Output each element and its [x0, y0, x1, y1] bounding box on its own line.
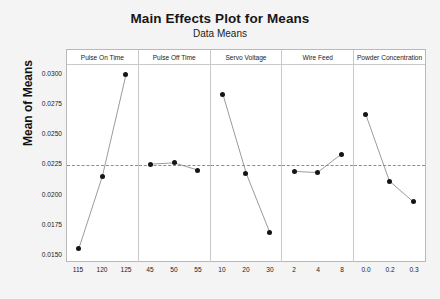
panel-body-1 [67, 65, 139, 262]
title-block: Main Effects Plot for Means Data Means [0, 11, 440, 40]
x-tick-label: 10 [210, 263, 234, 277]
panel-header-row: Pulse On TimePulse Off TimeServo Voltage… [67, 50, 425, 65]
panel-body-3 [211, 65, 283, 262]
x-tick-label: 55 [186, 263, 210, 277]
panel-header-5: Powder Concentration [354, 50, 425, 64]
x-tick-label: 120 [90, 263, 114, 277]
panel-header-4: Wire Feed [282, 50, 354, 64]
y-tick-label: 0.0175 [28, 221, 62, 228]
data-point [148, 162, 153, 167]
x-axis-tick-labels: 1151201254550551020302480.00.20.3 [66, 263, 426, 277]
series-1 [67, 65, 138, 262]
y-axis-tick-labels: 0.03000.02750.02500.02250.02000.01750.01… [24, 49, 62, 262]
series-4 [282, 65, 353, 262]
x-tick-label: 8 [330, 263, 354, 277]
x-tick-group-1: 115120125 [66, 263, 138, 277]
data-point [387, 179, 392, 184]
x-tick-label: 50 [162, 263, 186, 277]
panel-body-5 [354, 65, 425, 262]
data-point [100, 174, 105, 179]
x-tick-label: 45 [138, 263, 162, 277]
x-tick-label: 2 [282, 263, 306, 277]
panel-header-3: Servo Voltage [211, 50, 283, 64]
y-tick-label: 0.0275 [28, 100, 62, 107]
x-tick-label: 4 [306, 263, 330, 277]
x-tick-label: 0.3 [402, 263, 426, 277]
figure-caption [0, 287, 440, 299]
data-point [411, 199, 416, 204]
y-tick-label: 0.0225 [28, 160, 62, 167]
panel-body-row [67, 65, 425, 262]
plot-area: Pulse On TimePulse Off TimeServo Voltage… [66, 49, 426, 262]
series-5 [354, 65, 425, 262]
panel-body-2 [139, 65, 211, 262]
x-tick-label: 0.0 [354, 263, 378, 277]
x-tick-label: 20 [234, 263, 258, 277]
x-tick-label: 115 [66, 263, 90, 277]
panel-body-4 [282, 65, 354, 262]
data-point [195, 168, 200, 173]
y-tick-label: 0.0150 [28, 251, 62, 258]
data-point [339, 152, 344, 157]
panel-header-2: Pulse Off Time [139, 50, 211, 64]
page-title: Main Effects Plot for Means [0, 11, 440, 26]
y-tick-label: 0.0200 [28, 191, 62, 198]
x-tick-label: 125 [114, 263, 138, 277]
main-effects-plot-figure: Main Effects Plot for Means Data Means M… [0, 0, 440, 299]
x-tick-group-3: 102030 [210, 263, 282, 277]
data-point [220, 92, 225, 97]
panel-header-1: Pulse On Time [67, 50, 139, 64]
y-tick-label: 0.0300 [28, 70, 62, 77]
x-tick-label: 30 [258, 263, 282, 277]
x-tick-label: 0.2 [378, 263, 402, 277]
y-tick-label: 0.0250 [28, 130, 62, 137]
chart-subtitle: Data Means [0, 27, 440, 40]
x-tick-group-4: 248 [282, 263, 354, 277]
data-point [292, 169, 297, 174]
x-tick-group-5: 0.00.20.3 [354, 263, 426, 277]
x-tick-group-2: 455055 [138, 263, 210, 277]
